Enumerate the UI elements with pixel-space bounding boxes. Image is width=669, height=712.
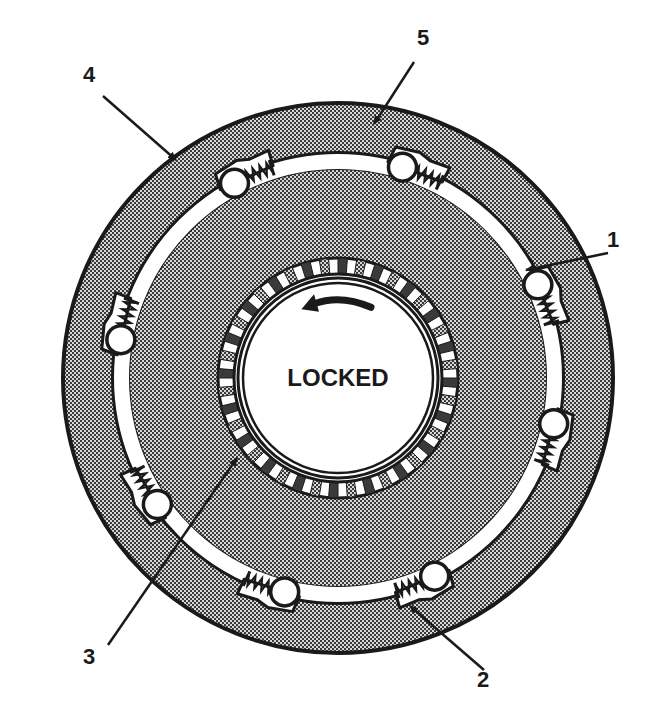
roller-icon: [220, 169, 248, 197]
roller-icon: [524, 271, 552, 299]
roller-icon: [388, 153, 416, 181]
callout-5-label: 5: [417, 27, 429, 49]
tooth: [329, 482, 338, 498]
clutch-drawing: [0, 0, 669, 712]
callout-1-label: 1: [607, 229, 619, 251]
roller-icon: [143, 490, 171, 518]
callout-3-label: 3: [83, 646, 95, 668]
leader-line-4: [103, 96, 176, 160]
tooth: [338, 258, 347, 274]
roller-clutch-diagram: LOCKED 1 2 3 4 5: [0, 0, 669, 712]
roller-icon: [421, 562, 449, 590]
tooth: [442, 378, 458, 387]
roller-icon: [107, 326, 135, 354]
roller-icon: [540, 410, 568, 438]
tooth: [218, 369, 234, 378]
roller-icon: [271, 578, 299, 606]
locked-label: LOCKED: [287, 364, 388, 392]
callout-2-label: 2: [477, 669, 489, 691]
callout-4-label: 4: [83, 64, 95, 86]
